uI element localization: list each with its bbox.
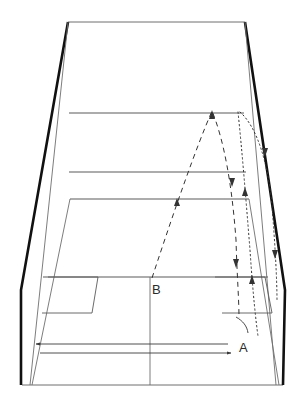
floor-left-diagonal (32, 199, 70, 385)
dotted-inner-arrowhead-1 (242, 187, 248, 196)
trajectory-dotted-inner (238, 112, 258, 336)
court-diagram-svg: B A (0, 0, 303, 402)
dashed-trajectory-path (152, 111, 239, 318)
court-outline (21, 22, 285, 385)
right-wall-thick (245, 22, 285, 385)
trajectory-dotted-outer (240, 112, 278, 302)
dotted-inner-path (238, 112, 258, 336)
dotted-inner-arrowhead-2 (249, 275, 255, 284)
dashed-arrowhead-4 (233, 259, 239, 268)
dotted-outer-arrowhead-2 (272, 250, 278, 259)
left-wall-thick (21, 22, 68, 385)
label-b: B (152, 282, 161, 297)
trajectory-dashed (152, 110, 239, 318)
back-wall-lines (69, 113, 249, 199)
direction-arrows (36, 344, 231, 353)
label-a: A (239, 340, 248, 355)
right-service-box (215, 277, 272, 313)
angle-arc (236, 317, 248, 333)
dashed-arrowhead-2 (209, 110, 215, 119)
diagram-root: B A (0, 0, 303, 402)
